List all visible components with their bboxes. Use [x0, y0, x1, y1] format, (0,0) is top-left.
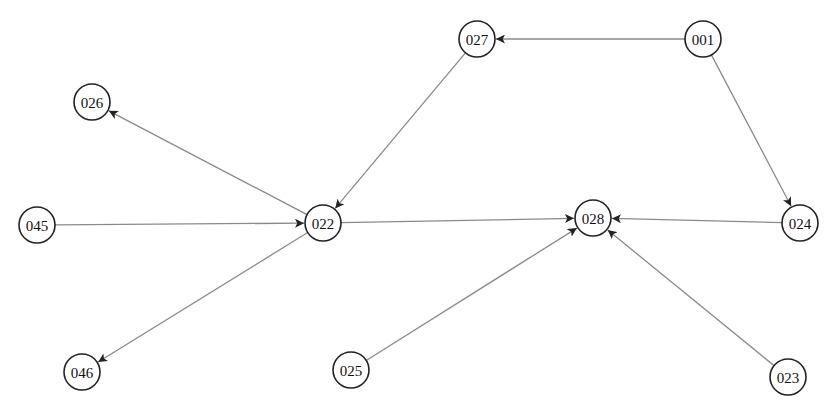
node-label: 046	[71, 365, 94, 381]
node-label: 025	[340, 363, 363, 379]
node-027[interactable]: 027	[459, 21, 495, 57]
node-023[interactable]: 023	[770, 359, 806, 395]
edge-027-to-022	[335, 53, 465, 209]
edge-022-to-028	[341, 218, 574, 222]
node-label: 024	[789, 216, 812, 232]
node-045[interactable]: 045	[19, 207, 55, 243]
edge-024-to-028	[612, 218, 782, 222]
node-label: 026	[81, 95, 104, 111]
graph-canvas: 001027026045022028024046025023	[0, 0, 834, 408]
node-001[interactable]: 001	[685, 21, 721, 57]
edges-layer	[55, 39, 791, 366]
edge-023-to-028	[608, 230, 774, 366]
node-label: 028	[582, 211, 605, 227]
node-label: 001	[692, 32, 715, 48]
node-label: 045	[26, 218, 49, 234]
nodes-layer: 001027026045022028024046025023	[19, 21, 818, 395]
node-046[interactable]: 046	[64, 354, 100, 390]
edge-001-to-024	[711, 55, 791, 206]
node-025[interactable]: 025	[333, 352, 369, 388]
node-label: 027	[466, 32, 489, 48]
node-024[interactable]: 024	[782, 205, 818, 241]
edge-022-to-046	[98, 232, 308, 362]
node-028[interactable]: 028	[575, 200, 611, 236]
edge-025-to-028	[366, 228, 577, 360]
edge-022-to-026	[109, 111, 307, 215]
node-026[interactable]: 026	[74, 84, 110, 120]
node-022[interactable]: 022	[305, 205, 341, 241]
edge-045-to-022	[55, 223, 304, 225]
node-label: 022	[312, 216, 335, 232]
node-label: 023	[777, 370, 800, 386]
